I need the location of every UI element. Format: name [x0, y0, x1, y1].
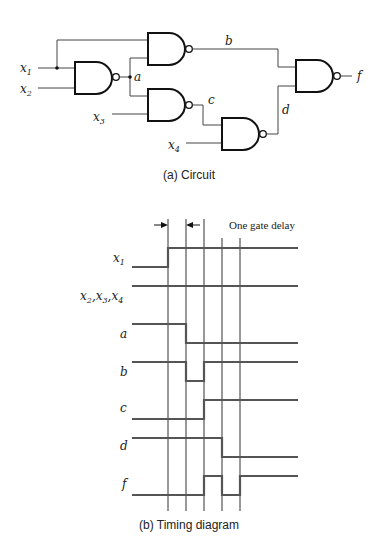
input-x4-label: x4	[168, 138, 180, 154]
inverter-bubble-f	[334, 73, 341, 80]
junction-x1	[55, 66, 59, 70]
junction-a	[128, 75, 132, 79]
signal-label-x1: x1	[113, 251, 125, 267]
nand-gate-a	[75, 62, 112, 94]
input-x3-label: x3	[93, 110, 105, 126]
signal-label-d: d	[120, 439, 128, 453]
signal-label-c: c	[120, 401, 127, 415]
waveform-a	[132, 324, 298, 343]
circuit-caption: (a) Circuit	[163, 168, 216, 182]
signal-label-a: a	[120, 327, 127, 341]
nand-gate-d	[222, 118, 259, 150]
arrow-left-icon	[186, 222, 193, 228]
timing-diagram: One gate delay x1 x2,x3,x4 a b c d f (b)…	[80, 219, 298, 532]
figure: x1 x2 x3 x4 a b c d f	[0, 0, 378, 540]
wire-b	[193, 49, 296, 67]
signal-label-b: b	[120, 365, 128, 379]
circuit: x1 x2 x3 x4 a b c d f	[20, 33, 364, 182]
inverter-bubble-a	[113, 74, 120, 81]
waveform-x1	[132, 248, 298, 267]
arrow-right-icon	[161, 222, 168, 228]
waveform-f	[132, 476, 298, 495]
waveform-b	[132, 362, 298, 381]
wire-c	[193, 105, 222, 125]
inverter-bubble-c	[186, 102, 193, 109]
nand-gate-b	[148, 33, 185, 65]
output-f-label: f	[356, 69, 364, 83]
node-c-label: c	[208, 93, 215, 107]
node-b-label: b	[225, 34, 233, 48]
inverter-bubble-d	[260, 131, 267, 138]
node-d-label: d	[282, 103, 290, 117]
signal-label-f: f	[121, 477, 129, 491]
input-x2-label: x2	[20, 82, 32, 98]
nand-gate-f	[296, 60, 333, 92]
waveform-d	[132, 438, 298, 457]
delay-label: One gate delay	[229, 219, 295, 231]
nand-gate-c	[148, 89, 185, 121]
node-a-label: a	[134, 70, 141, 84]
waveform-c	[132, 400, 298, 419]
input-x1-label: x1	[20, 61, 32, 77]
timing-caption: (b) Timing diagram	[139, 518, 239, 532]
signal-label-x2x3x4: x2,x3,x4	[80, 289, 123, 305]
inverter-bubble-b	[186, 46, 193, 53]
